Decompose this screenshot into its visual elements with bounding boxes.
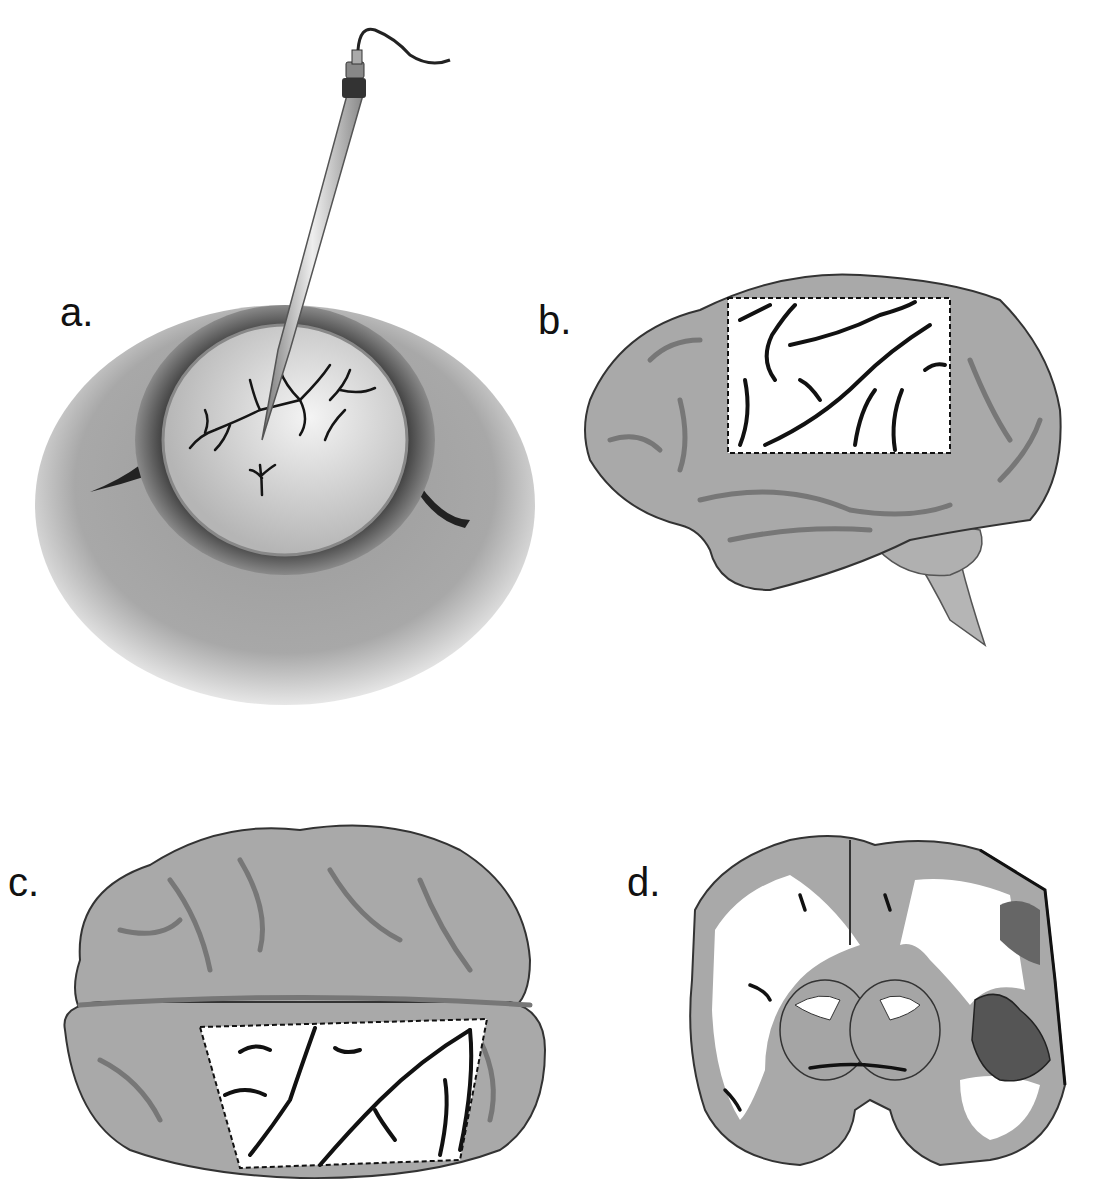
panel-c: c. — [0, 780, 560, 1197]
coronal-section-illustration — [600, 780, 1106, 1197]
panel-d: d. — [600, 780, 1106, 1197]
electrode-craniotomy-illustration — [0, 0, 560, 720]
lateral-brain-illustration — [530, 240, 1106, 660]
panel-label-b: b. — [538, 298, 571, 343]
upper-hemisphere — [75, 826, 530, 1011]
panel-label-d: d. — [627, 860, 660, 905]
panel-b: b. — [530, 240, 1106, 660]
panel-a: a. — [0, 0, 560, 720]
exposed-region-lateral — [728, 298, 950, 453]
electrode-wire — [358, 29, 450, 63]
panel-label-a: a. — [60, 290, 93, 335]
panel-label-c: c. — [8, 860, 39, 905]
top-view-brain-illustration — [0, 780, 560, 1197]
